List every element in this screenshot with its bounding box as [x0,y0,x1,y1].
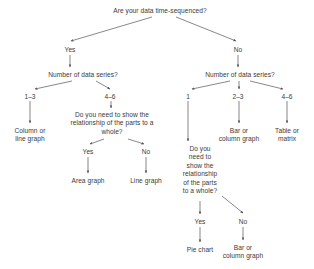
flow-arrow [35,81,72,89]
node-q-root: Are your data time-sequenced? [95,7,225,15]
node-e-right-no: No [232,218,254,226]
node-e-r-46: 4–6 [276,93,298,101]
node-e-r-23: 2–3 [227,93,249,101]
node-e-yes: Yes [58,46,82,54]
flow-arrow [250,81,283,89]
node-r-bar-col-b: Bar or column graph [212,244,274,261]
node-e-no: No [227,46,249,54]
flow-arrow [96,81,110,89]
node-r-bar-col-r: Bar or column graph [208,127,270,144]
node-q-parts-mid: Do you need to show the relationship of … [57,111,167,136]
flow-arrow [192,81,230,89]
flow-arrow [90,139,104,144]
node-e-r-1: 1 [180,93,196,101]
node-e-mid-no: No [135,148,157,156]
flow-arrow [222,196,243,213]
node-e-l-46: 4–6 [99,93,121,101]
node-e-mid-yes: Yes [76,148,100,156]
flow-arrow [176,17,236,41]
node-r-area: Area graph [62,177,114,185]
node-q-series-r: Number of data series? [190,71,290,79]
node-r-table: Table or matrix [263,127,311,144]
flow-arrow [71,17,152,41]
node-r-col-line: Column or line graph [2,127,58,144]
decision-tree-diagram: Are your data time-sequenced?YesNoNumber… [0,0,314,269]
node-r-line: Line graph [120,177,172,185]
flow-arrow [128,139,144,144]
node-e-right-yes: Yes [188,218,212,226]
node-e-l-13: 1–3 [19,93,41,101]
node-q-parts-right: Do you need to show the relationship of … [172,145,228,196]
node-q-series-l: Number of data series? [33,71,133,79]
